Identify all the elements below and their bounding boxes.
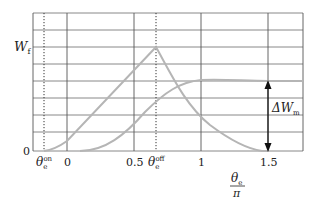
delta-wm-arrow: [265, 80, 272, 152]
x-tick-0: 0: [64, 156, 71, 169]
x-label-theta-on: θeon: [36, 155, 53, 171]
dotted-markers: [44, 13, 156, 151]
x-axis-label-numerator: θe: [231, 171, 242, 187]
vertical-gridlines: [33, 13, 303, 151]
delta-wm-label: ΔWm: [271, 101, 300, 117]
x-axis-label-denominator: π: [232, 187, 241, 198]
y-label-zero: 0: [23, 145, 30, 158]
x-label-theta-off: θeoff: [148, 155, 166, 171]
x-tick-0-5: 0.5: [126, 156, 144, 169]
horizontal-gridlines: [33, 13, 303, 151]
chart-canvas: Wf 0 θeon 0 0.5 θeoff 1 1.5 θe π ΔWm: [0, 0, 315, 198]
series-triangle-curve: [44, 47, 268, 151]
x-tick-1-5: 1.5: [260, 156, 278, 169]
x-tick-1: 1: [198, 156, 205, 169]
y-label-wf: Wf: [14, 39, 31, 56]
